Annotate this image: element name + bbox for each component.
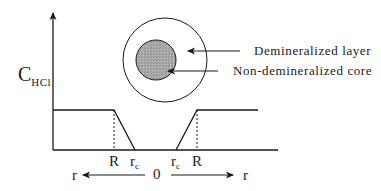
y-axis-label-main: C	[18, 63, 31, 85]
legend-demineralized-layer: Demineralized layer	[254, 44, 371, 57]
concentration-profile-right	[176, 110, 258, 150]
tick-right-rc-sub: c	[176, 161, 180, 171]
tick-left-R: R	[109, 154, 119, 169]
y-axis-label: CHCl	[18, 64, 51, 88]
tick-right-R: R	[192, 154, 202, 169]
radial-left-label: r	[72, 168, 77, 183]
radial-origin-label: 0	[153, 167, 161, 182]
tick-left-rc-sub: c	[135, 161, 139, 171]
concentration-profile-left	[53, 110, 135, 150]
concentration-profile-diagram	[0, 0, 381, 191]
radial-right-label: r	[243, 168, 248, 183]
tick-right-rc: rc	[171, 154, 180, 171]
legend-non-demineralized-core: Non-demineralized core	[233, 64, 372, 77]
y-axis-label-sub: HCl	[31, 76, 51, 88]
tick-left-rc: rc	[130, 154, 139, 171]
non-demineralized-core-circle	[136, 40, 176, 80]
